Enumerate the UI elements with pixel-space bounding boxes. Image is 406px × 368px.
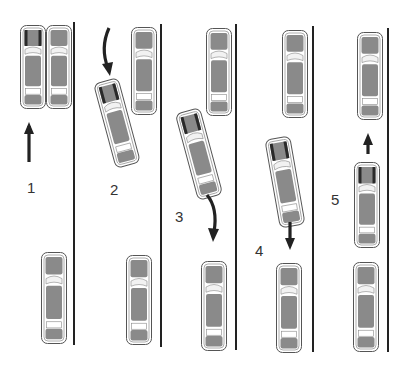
- maneuvering-car: [21, 26, 46, 109]
- maneuvering-car: [175, 108, 222, 200]
- step-label-1: 1: [27, 179, 35, 196]
- maneuvering-car: [355, 163, 380, 248]
- step-label-4: 4: [255, 242, 263, 259]
- parked-car: [202, 262, 227, 351]
- parked-car: [283, 31, 308, 118]
- step-label-3: 3: [175, 208, 183, 225]
- parallel-parking-diagram: 12345: [0, 0, 406, 368]
- parked-car: [207, 29, 232, 116]
- direction-arrow-icon: [24, 122, 34, 162]
- direction-arrow-icon: [207, 195, 219, 242]
- parked-car: [354, 263, 379, 352]
- parked-car: [277, 264, 302, 353]
- step-label-2: 2: [110, 181, 118, 198]
- maneuvering-car: [265, 136, 305, 228]
- direction-arrow-icon: [363, 133, 373, 154]
- diagram-canvas: [0, 0, 406, 368]
- parked-car: [47, 26, 72, 109]
- direction-arrow-icon: [102, 28, 113, 76]
- parked-car: [127, 256, 152, 345]
- step-label-5: 5: [331, 191, 339, 208]
- parked-car: [358, 33, 383, 120]
- parked-car: [42, 253, 67, 344]
- parked-car: [132, 28, 157, 115]
